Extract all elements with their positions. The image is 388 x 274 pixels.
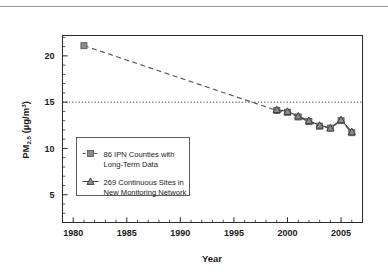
x-axis-title: Year [202,253,222,264]
y-tick-label: 20 [44,51,54,61]
chart-legend: 86 IPN Counties withLong-Term Data269 Co… [77,138,190,197]
y-tick-label: 15 [44,97,54,107]
x-tick-label: 1995 [224,228,244,238]
x-tick-label: 2000 [277,228,297,238]
y-tick-label: 5 [49,190,54,200]
x-tick-label: 1980 [63,228,83,238]
x-tick-label: 1990 [170,228,190,238]
legend-marker-1 [88,151,94,157]
svg-text:PM2.5 (µg/m3): PM2.5 (µg/m3) [20,101,32,159]
legend-label-line1: 86 IPN Counties with [104,150,175,159]
x-axis-tick-labels: 198019851990199520002005 [63,228,351,238]
legend-label-line1: 269 Continuous Sites in [104,178,184,187]
y-axis-title-units: (µg/m [20,108,31,136]
data-point-marker [81,43,87,49]
x-tick-label: 1985 [117,228,137,238]
y-axis-title-units-close: ) [20,101,31,104]
legend-label-line2: Long-Term Data [104,160,159,169]
y-axis-tick-labels: 5101520 [44,51,54,200]
chart-figure: 198019851990199520002005 5101520 Year PM… [0,0,388,274]
pm25-trend-chart: 198019851990199520002005 5101520 Year PM… [0,0,388,274]
y-axis-title: PM2.5 (µg/m3) [20,101,32,159]
y-tick-label: 10 [44,144,54,154]
legend-label-line2: New Monitoring Network [104,188,187,197]
x-tick-label: 2005 [331,228,351,238]
y-axis-title-base: PM [20,144,31,158]
